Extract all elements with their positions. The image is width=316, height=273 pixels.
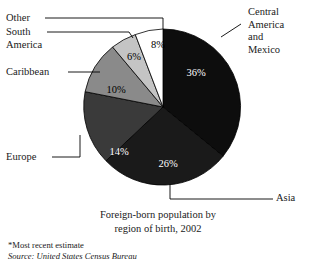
slice-value-europe: 14% <box>109 146 129 157</box>
slice-value-caribbean: 10% <box>106 84 126 95</box>
slice-value-other: 8% <box>151 39 165 50</box>
callout-label-europe: Europe <box>6 151 68 164</box>
footnote-estimate: *Most recent estimate <box>8 240 308 251</box>
callout-label-south-america: South America <box>6 26 76 51</box>
slice-value-central-america-and-mexico: 36% <box>186 67 206 78</box>
callout-label-other: Other <box>6 12 68 25</box>
callout-label-asia: Asia <box>276 192 316 205</box>
leader-line-central-america-and-mexico <box>221 24 241 37</box>
leader-line-asia <box>170 184 273 199</box>
callout-label-caribbean: Caribbean <box>6 66 76 79</box>
slice-value-south-america: 6% <box>127 51 141 62</box>
footnote-source: Source: United States Census Bureau <box>8 251 308 262</box>
caption-line-1: Foreign-born population by <box>0 208 316 222</box>
slice-value-asia: 26% <box>158 158 178 169</box>
callout-label-central-america-and-mexico: Central America and Mexico <box>248 6 314 56</box>
pie-chart-figure: 36% 26% 14% 10% 6% 8% Central America an… <box>0 0 316 273</box>
chart-caption: Foreign-born population by region of bir… <box>0 208 316 236</box>
caption-line-2: region of birth, 2002 <box>0 222 316 236</box>
footnotes-block: *Most recent estimate Source: United Sta… <box>8 240 308 262</box>
